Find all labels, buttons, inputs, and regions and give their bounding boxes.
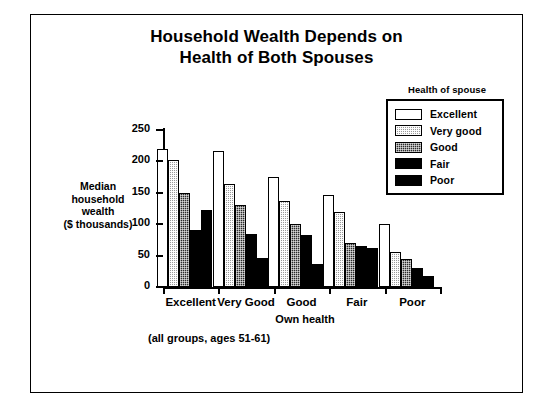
y-tick-label: 0	[108, 279, 150, 291]
bar	[157, 149, 168, 287]
legend-title: Health of spouse	[382, 84, 512, 95]
bar	[323, 195, 334, 287]
bar-group-good	[274, 130, 329, 287]
bar	[257, 258, 268, 287]
bar	[179, 193, 190, 287]
bar-group-excellent	[163, 130, 218, 287]
bar	[390, 252, 401, 287]
chart-title-line-2: Health of Both Spouses	[30, 47, 523, 68]
bar-group-poor	[385, 130, 440, 287]
x-tick	[163, 289, 165, 294]
legend-swatch-icon	[395, 109, 422, 120]
bar	[168, 160, 179, 287]
legend-label: Excellent	[430, 108, 477, 120]
y-tick-label: 150	[108, 185, 150, 197]
bar	[312, 264, 323, 287]
y-tick-label: 50	[108, 248, 150, 260]
bar	[213, 151, 224, 287]
x-tick	[274, 289, 276, 294]
bar	[379, 224, 390, 287]
bar	[345, 243, 356, 287]
y-tick	[156, 192, 163, 194]
y-tick	[156, 286, 163, 288]
bar	[290, 224, 301, 287]
x-tick	[218, 289, 220, 294]
y-tick	[156, 223, 163, 225]
bar-group-fair	[329, 130, 384, 287]
bar	[201, 210, 212, 287]
bar	[279, 201, 290, 287]
x-axis-label: Own health	[250, 313, 360, 325]
x-axis-line	[163, 287, 442, 289]
x-tick	[385, 289, 387, 294]
legend-item-excellent: Excellent	[395, 107, 494, 121]
y-tick-label: 100	[108, 216, 150, 228]
bar	[412, 268, 423, 287]
y-tick	[156, 129, 163, 131]
bar	[246, 234, 257, 287]
bar	[224, 184, 235, 287]
plot-area	[163, 130, 440, 287]
bar	[301, 235, 312, 287]
chart-figure: Household Wealth Depends on Health of Bo…	[0, 0, 555, 410]
bar	[367, 248, 378, 287]
bar	[401, 259, 412, 287]
chart-title: Household Wealth Depends on Health of Bo…	[30, 26, 523, 68]
bar-group-very-good	[218, 130, 273, 287]
bar	[190, 230, 201, 287]
x-tick	[440, 289, 442, 294]
bar	[334, 212, 345, 287]
chart-title-line-1: Household Wealth Depends on	[30, 26, 523, 47]
bar	[268, 177, 279, 287]
y-tick-label: 200	[108, 153, 150, 165]
bar	[356, 246, 367, 287]
chart-note: (all groups, ages 51-61)	[148, 332, 270, 344]
y-tick	[156, 160, 163, 162]
bar	[423, 276, 434, 287]
x-tick-label: Poor	[367, 296, 457, 308]
y-tick-label: 250	[108, 122, 150, 134]
x-tick	[329, 289, 331, 294]
bar	[235, 205, 246, 287]
y-tick	[156, 255, 163, 257]
